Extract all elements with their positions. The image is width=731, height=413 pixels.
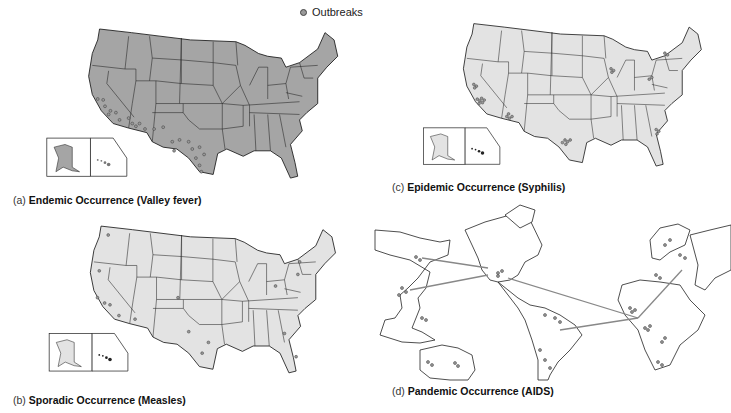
caption-sporadic: (b) Sporadic Occurrence (Measles): [13, 394, 186, 406]
panel-epidemic-map: (c) Epidemic Occurrence (Syphilis): [370, 0, 731, 200]
panel-endemic-map: (a) Endemic Occurrence (Valley fever): [0, 0, 360, 200]
us-map-epidemic: [415, 8, 715, 173]
panel-pandemic-map: (d) Pandemic Occurrence (AIDS): [360, 200, 731, 413]
caption-epidemic: (c) Epidemic Occurrence (Syphilis): [392, 181, 565, 193]
world-map-pandemic: [360, 200, 731, 380]
caption-endemic: (a) Endemic Occurrence (Valley fever): [13, 194, 202, 206]
panel-sporadic-map: (b) Sporadic Occurrence (Measles): [0, 210, 360, 410]
caption-pandemic: (d) Pandemic Occurrence (AIDS): [392, 385, 554, 397]
us-map-sporadic: [45, 210, 345, 380]
us-map-endemic: [45, 10, 345, 188]
